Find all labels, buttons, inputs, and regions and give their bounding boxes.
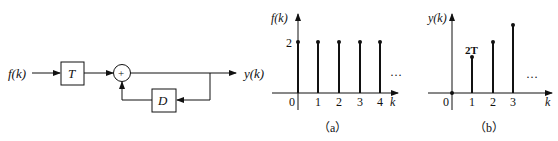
chart-b-xlabel: k <box>545 95 551 109</box>
input-label: f(k) <box>8 66 26 81</box>
chart-b-xtick-1: 1 <box>469 95 475 109</box>
chart-a-xtick-2: 2 <box>336 95 342 109</box>
gain-block-label: T <box>68 66 76 81</box>
chart-a-markers <box>296 40 382 44</box>
chart-a-xtick-0: 0 <box>289 95 295 109</box>
chart-b: y(k) 2T 0 1 2 3 k … （b） <box>427 11 552 135</box>
chart-a-xtick-4: 4 <box>377 95 383 109</box>
chart-b-ylabel: y(k) <box>427 11 447 25</box>
chart-b-xtick-3: 3 <box>510 95 516 109</box>
chart-b-markers <box>450 23 515 95</box>
chart-b-xtick-2: 2 <box>490 95 496 109</box>
block-diagram: f(k) T + y(k) D <box>8 62 264 112</box>
chart-b-annotation: 2T <box>465 44 479 56</box>
chart-a-stems <box>298 42 380 93</box>
chart-b-continuation: … <box>526 67 538 81</box>
chart-a-ytick: 2 <box>286 36 292 50</box>
figure-canvas: f(k) T + y(k) D f(k) 2 <box>0 0 558 141</box>
delay-block-label: D <box>157 93 168 108</box>
chart-b-stems <box>472 25 513 93</box>
chart-a-xtick-3: 3 <box>357 95 363 109</box>
chart-a-ylabel: f(k) <box>271 11 288 25</box>
output-label: y(k) <box>242 66 264 81</box>
chart-b-xtick-0: 0 <box>443 95 449 109</box>
adder-symbol: + <box>118 67 124 79</box>
chart-a-continuation: … <box>390 65 402 79</box>
chart-a: f(k) 2 0 1 2 3 4 k … （a） <box>271 11 402 135</box>
feedback-path-out <box>122 82 152 100</box>
feedback-path-in <box>177 73 210 100</box>
chart-a-xtick-1: 1 <box>315 95 321 109</box>
chart-b-caption: （b） <box>474 121 504 135</box>
chart-a-xlabel: k <box>390 95 396 109</box>
chart-a-caption: （a） <box>318 121 347 135</box>
